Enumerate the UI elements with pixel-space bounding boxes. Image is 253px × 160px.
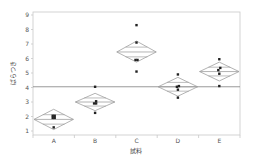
- y-axis-title: ばらつき: [9, 61, 17, 85]
- data-point: [218, 85, 220, 87]
- data-point: [136, 59, 138, 61]
- diamond-E: [200, 62, 239, 81]
- y-tick-label: 2: [25, 113, 29, 120]
- y-tick-label: 7: [25, 40, 29, 47]
- x-tick-label: D: [176, 137, 181, 144]
- data-point: [177, 88, 179, 90]
- data-point: [95, 100, 97, 102]
- y-tick-label: 1: [25, 127, 29, 134]
- data-point: [53, 126, 55, 128]
- data-point: [218, 73, 220, 75]
- x-tick-label: A: [52, 137, 57, 144]
- y-tick-label: 6: [25, 55, 29, 62]
- means-diamonds-chart: 123456789 ABCDE 試料 ばらつき: [0, 0, 253, 160]
- y-tick-label: 3: [25, 98, 29, 105]
- y-tick-label: 8: [25, 26, 29, 33]
- data-point: [135, 41, 137, 43]
- data-point: [94, 86, 96, 88]
- data-point: [94, 112, 96, 114]
- data-point: [177, 73, 179, 75]
- data-point: [177, 96, 179, 98]
- plot-frame: [33, 12, 240, 135]
- data-point: [135, 24, 137, 26]
- x-tick-label: E: [217, 137, 221, 144]
- x-axis-title: 試料: [130, 147, 142, 155]
- x-tick-label: B: [93, 137, 97, 144]
- y-tick-label: 5: [25, 69, 29, 76]
- data-point: [219, 67, 221, 69]
- y-axis: 123456789: [25, 11, 33, 134]
- data-point: [54, 117, 56, 119]
- data-points: [52, 24, 222, 129]
- plot-border: [33, 12, 240, 135]
- means-diamonds: [34, 41, 239, 129]
- y-tick-label: 4: [25, 84, 29, 91]
- x-axis: ABCDE: [33, 135, 240, 144]
- x-tick-label: C: [134, 137, 138, 144]
- data-point: [218, 58, 220, 60]
- data-point: [54, 115, 56, 117]
- data-point: [176, 86, 178, 88]
- y-tick-label: 9: [25, 11, 29, 18]
- data-point: [95, 102, 97, 104]
- data-point: [217, 69, 219, 71]
- data-point: [135, 70, 137, 72]
